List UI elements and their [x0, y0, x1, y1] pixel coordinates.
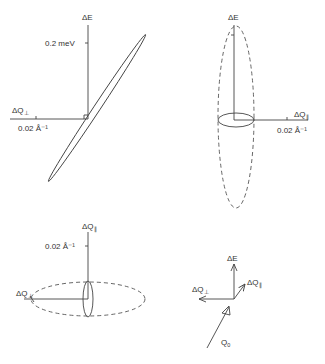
panel-top-left: ΔE 0.2 meV ΔQ⊥ 0.02 Å⁻¹: [10, 13, 148, 183]
energy-tick-label: 0.2 meV: [45, 39, 75, 48]
q-perp-arrow-label: ΔQ⊥: [192, 285, 209, 295]
q-par-axis-label: ΔQ∥: [294, 110, 309, 121]
panel-top-right: ΔE ΔQ∥ 0.02 Å⁻¹: [218, 13, 309, 208]
q-par-tick-label: 0.02 Å⁻¹: [277, 126, 307, 135]
q-perp-axis-label: ΔQ⊥: [16, 289, 33, 299]
q0-arrow-label: Q0: [221, 338, 230, 348]
resolution-ellipsoid-diagram: ΔE 0.2 meV ΔQ⊥ 0.02 Å⁻¹ ΔE ΔQ∥ 0.02 Å⁻¹ …: [0, 0, 325, 364]
q-perp-axis-label: ΔQ⊥: [12, 106, 29, 116]
energy-axis-label: ΔE: [82, 13, 93, 22]
q-par-axis-label: ΔQ∥: [82, 222, 97, 233]
energy-arrow-label: ΔE: [227, 254, 238, 263]
q-par-arrow-label: ΔQ∥: [247, 278, 262, 289]
q-par-arrow: [234, 284, 245, 299]
panel-bottom-left: ΔQ∥ 0.02 Å⁻¹ ΔQ⊥: [16, 222, 145, 317]
panel-bottom-right: ΔE ΔQ∥ ΔQ⊥ Q0: [192, 254, 262, 348]
dashed-ellipse: [218, 26, 254, 208]
q-perp-tick-label: 0.02 Å⁻¹: [18, 124, 48, 133]
energy-axis-label: ΔE: [228, 13, 239, 22]
q-par-tick-label: 0.02 Å⁻¹: [45, 242, 75, 251]
resolution-ellipse-projection: [46, 33, 149, 183]
q0-arrowhead-icon: [222, 306, 230, 315]
